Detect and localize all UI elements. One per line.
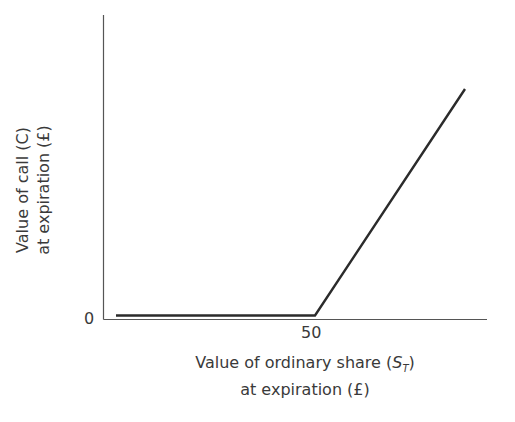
x-axis-label-line1: Value of ordinary share (ST) — [160, 352, 450, 379]
y-axis-label: Value of call (C) at expiration (£) — [12, 80, 54, 300]
y-tick-0: 0 — [84, 309, 94, 328]
x-axis-label: Value of ordinary share (ST) at expirati… — [160, 352, 450, 400]
x-tick-50: 50 — [301, 323, 321, 342]
y-axis-label-line2: at expiration (£) — [33, 80, 54, 300]
call-payoff-line — [116, 89, 465, 316]
x-axis-label-line2: at expiration (£) — [160, 379, 450, 400]
y-axis-label-line1: Value of call (C) — [12, 80, 33, 300]
x-label-symbol: ST — [392, 353, 408, 372]
x-label-close: ) — [409, 353, 415, 372]
x-label-text: Value of ordinary share ( — [195, 353, 392, 372]
